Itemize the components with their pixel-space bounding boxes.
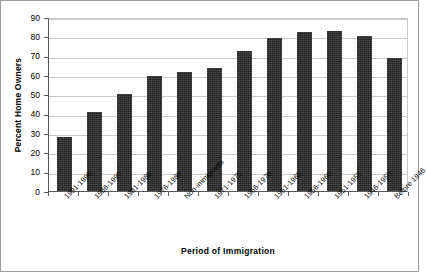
x-axis-tick-labels: 1991-19961986-19901981-19851976-1980Non-… — [48, 195, 408, 245]
bar — [357, 36, 372, 191]
bar — [267, 38, 282, 191]
y-tick-mark — [44, 18, 48, 19]
y-tick-mark — [44, 115, 48, 116]
bar — [327, 31, 342, 191]
y-tick-mark — [44, 76, 48, 77]
y-tick-label: 0 — [0, 188, 40, 197]
y-tick-label: 20 — [0, 149, 40, 158]
x-axis-title: Period of Immigration — [48, 246, 408, 256]
y-tick-label: 10 — [0, 168, 40, 177]
y-tick-mark — [44, 57, 48, 58]
bar-series — [49, 19, 407, 191]
y-tick-mark — [44, 173, 48, 174]
y-tick-mark — [44, 134, 48, 135]
y-tick-label: 50 — [0, 91, 40, 100]
y-tick-label: 90 — [0, 14, 40, 23]
y-tick-mark — [44, 95, 48, 96]
plot-area — [48, 18, 408, 192]
bar — [297, 32, 312, 191]
y-tick-label: 40 — [0, 110, 40, 119]
x-tick-mark — [408, 192, 409, 196]
y-tick-mark — [44, 37, 48, 38]
bar — [57, 137, 72, 191]
y-tick-label: 70 — [0, 52, 40, 61]
y-tick-mark — [44, 153, 48, 154]
y-axis-title: Percent Home Owners — [13, 25, 23, 185]
y-tick-label: 30 — [0, 130, 40, 139]
y-tick-label: 60 — [0, 72, 40, 81]
y-tick-label: 80 — [0, 33, 40, 42]
